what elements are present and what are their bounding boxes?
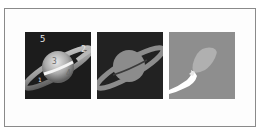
label-5: 5: [40, 35, 45, 44]
label-4: 4: [66, 70, 71, 78]
label-3: 3: [52, 58, 57, 66]
panel-region-mask: [169, 32, 235, 99]
saturn-original-image: [25, 32, 91, 99]
label-1: 1: [38, 76, 42, 84]
region-mask-image: [169, 32, 235, 99]
label-2: 2: [81, 46, 86, 54]
panel-segmented-saturn: [97, 32, 163, 99]
panel-original-saturn: 5 2 3 4 1: [25, 32, 91, 99]
saturn-segmented-image: [97, 32, 163, 99]
